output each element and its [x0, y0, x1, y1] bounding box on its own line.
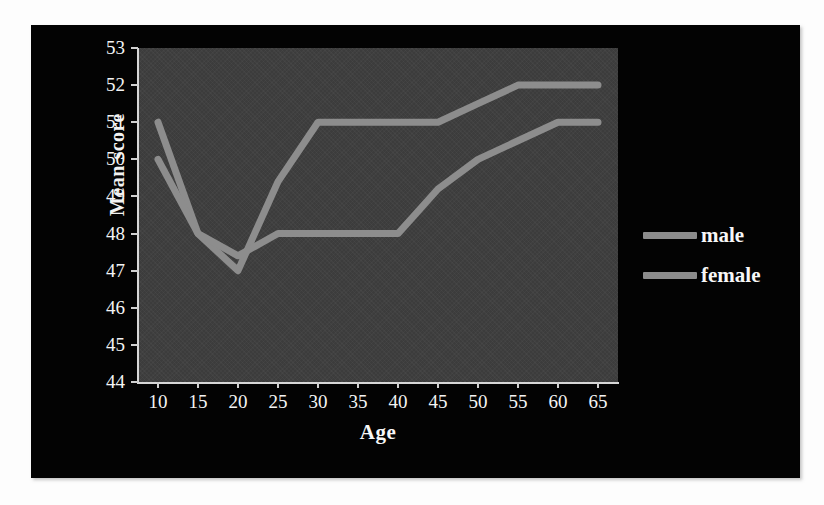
- x-axis-title: Age: [138, 420, 618, 445]
- x-tick-label-20: 20: [216, 392, 260, 411]
- y-tick-46: [131, 307, 138, 309]
- x-tick-60: [557, 382, 559, 388]
- x-tick-label-50: 50: [456, 392, 500, 411]
- y-tick-label-46: 46: [81, 298, 125, 317]
- y-tick-49: [131, 195, 138, 197]
- y-tick-label-47: 47: [81, 261, 125, 280]
- x-tick-label-25: 25: [256, 392, 300, 411]
- x-tick-20: [237, 382, 239, 388]
- y-tick-50: [131, 158, 138, 160]
- x-tick-15: [197, 382, 199, 388]
- x-tick-label-55: 55: [496, 392, 540, 411]
- legend: male female: [643, 215, 793, 295]
- y-tick-label-48: 48: [81, 224, 125, 243]
- series-line-male: [158, 85, 598, 271]
- series-line-female: [158, 122, 598, 256]
- legend-swatch-male-icon: [643, 232, 697, 239]
- legend-label-male: male: [701, 225, 744, 246]
- x-axis-line: [137, 382, 619, 384]
- legend-label-female: female: [701, 265, 760, 286]
- legend-swatch-female-icon: [643, 272, 697, 279]
- figure: Mean score 44454647484950515253 10152025…: [0, 0, 824, 505]
- y-tick-label-53: 53: [81, 38, 125, 57]
- x-tick-10: [157, 382, 159, 388]
- y-tick-51: [131, 121, 138, 123]
- legend-item-female: female: [643, 255, 793, 295]
- y-tick-47: [131, 270, 138, 272]
- y-tick-52: [131, 84, 138, 86]
- x-tick-30: [317, 382, 319, 388]
- y-tick-label-49: 49: [81, 186, 125, 205]
- plot-area: [138, 48, 618, 382]
- plot-svg: [138, 48, 618, 382]
- x-tick-65: [597, 382, 599, 388]
- x-tick-35: [357, 382, 359, 388]
- y-axis-line: [137, 48, 139, 384]
- x-tick-40: [397, 382, 399, 388]
- y-tick-label-50: 50: [81, 149, 125, 168]
- x-tick-50: [477, 382, 479, 388]
- x-tick-45: [437, 382, 439, 388]
- y-tick-53: [131, 47, 138, 49]
- y-tick-44: [131, 381, 138, 383]
- x-tick-label-65: 65: [576, 392, 620, 411]
- y-tick-label-51: 51: [81, 112, 125, 131]
- x-tick-55: [517, 382, 519, 388]
- chart-frame: Mean score 44454647484950515253 10152025…: [31, 25, 800, 478]
- x-tick-label-15: 15: [176, 392, 220, 411]
- legend-item-male: male: [643, 215, 793, 255]
- x-tick-label-45: 45: [416, 392, 460, 411]
- y-tick-45: [131, 344, 138, 346]
- y-tick-label-52: 52: [81, 75, 125, 94]
- y-tick-label-44: 44: [81, 372, 125, 391]
- x-tick-label-30: 30: [296, 392, 340, 411]
- x-tick-25: [277, 382, 279, 388]
- x-tick-label-35: 35: [336, 392, 380, 411]
- x-tick-label-40: 40: [376, 392, 420, 411]
- y-tick-label-45: 45: [81, 335, 125, 354]
- x-tick-label-10: 10: [136, 392, 180, 411]
- y-tick-48: [131, 233, 138, 235]
- x-tick-label-60: 60: [536, 392, 580, 411]
